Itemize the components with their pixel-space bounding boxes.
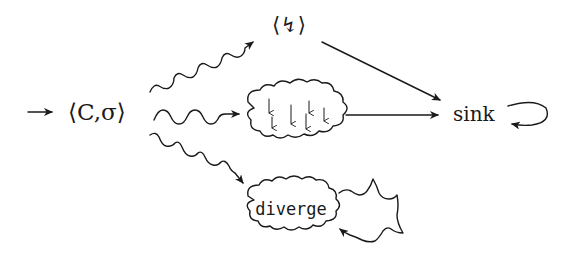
- down-arrow-icons: [269, 99, 324, 129]
- diagram-canvas: ⟨C,σ⟩ ⟨↯⟩ sink: [0, 0, 577, 255]
- error-node-label: ⟨↯⟩: [272, 13, 306, 37]
- sink-node: sink: [453, 102, 496, 126]
- start-node: ⟨C,σ⟩: [68, 99, 126, 125]
- error-node: ⟨↯⟩: [272, 13, 306, 37]
- diverge-node: diverge: [247, 176, 339, 230]
- diverge-self-loop: [339, 179, 403, 242]
- start-node-label: ⟨C,σ⟩: [68, 99, 126, 125]
- sink-node-label: sink: [453, 102, 496, 126]
- arrow-error-to-sink: [322, 42, 440, 100]
- wavy-arrow-to-diverge: [150, 133, 243, 183]
- sink-self-loop: [508, 102, 547, 125]
- wavy-arrow-to-cloud: [154, 110, 239, 124]
- state-cloud: [248, 79, 347, 138]
- wavy-arrow-to-error: [150, 42, 253, 92]
- diverge-node-label: diverge: [255, 199, 327, 219]
